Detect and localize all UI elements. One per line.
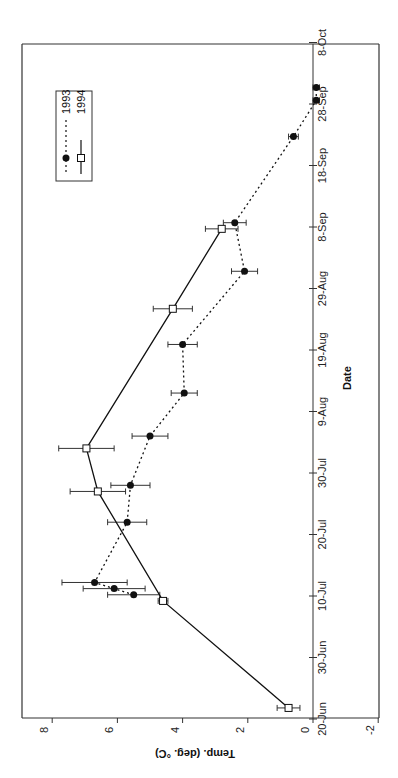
- data-point-marker: [169, 305, 176, 312]
- x-tick-label: 29-Aug: [316, 271, 328, 306]
- data-point-marker: [241, 268, 248, 275]
- y-tick-label: 8: [38, 727, 50, 733]
- series-1993: [62, 84, 320, 598]
- x-tick-label: 20-Jun: [316, 702, 328, 736]
- data-point-marker: [127, 482, 134, 489]
- data-point-marker: [160, 597, 167, 604]
- x-tick-label: 30-Jun: [316, 641, 328, 675]
- data-point-marker: [111, 585, 118, 592]
- x-tick-label: 9-Aug: [316, 397, 328, 426]
- y-axis-title: Temp. (deg. °C): [155, 748, 235, 760]
- y-tick-label: 2: [234, 727, 246, 733]
- temperature-chart: 20-Jun30-Jun10-Jul20-Jul30-Jul9-Aug19-Au…: [0, 0, 398, 778]
- data-point-marker: [218, 225, 225, 232]
- data-point-marker: [94, 488, 101, 495]
- legend-label-1993: 1993: [60, 90, 72, 114]
- x-tick-label: 18-Sep: [316, 148, 328, 183]
- data-point-marker: [83, 445, 90, 452]
- data-point-marker: [91, 579, 98, 586]
- data-point-marker: [313, 97, 320, 104]
- data-point-marker: [313, 84, 320, 91]
- annotation-label: 4: [0, 0, 3, 2]
- data-point-marker: [130, 591, 137, 598]
- x-tick-label: 8-Oct: [316, 29, 328, 56]
- data-point-marker: [231, 219, 238, 226]
- y-tick-label: 0: [299, 727, 311, 733]
- data-point-marker: [179, 341, 186, 348]
- legend-label-1994: 1994: [75, 90, 87, 114]
- data-point-marker: [147, 433, 154, 440]
- y-tick-label: -2: [364, 725, 376, 735]
- data-point-marker: [181, 390, 188, 397]
- data-point-marker: [290, 133, 297, 140]
- data-point-marker: [124, 519, 131, 526]
- y-tick-label: 6: [103, 727, 115, 733]
- series-1994: [59, 225, 300, 711]
- data-series: [59, 84, 320, 712]
- legend: 1993 1994: [56, 90, 92, 181]
- x-tick-label: 19-Aug: [316, 332, 328, 367]
- x-axis-title: Date: [341, 366, 353, 390]
- x-tick-label: 10-Jul: [316, 581, 328, 611]
- x-tick-label: 20-Jul: [316, 520, 328, 550]
- open-square-marker-icon: [78, 155, 85, 162]
- y-tick-label: 4: [169, 727, 181, 733]
- data-point-marker: [285, 704, 292, 711]
- x-tick-label: 28-Sep: [316, 86, 328, 121]
- x-tick-label: 30-Jul: [316, 458, 328, 488]
- x-tick-label: 8-Sep: [316, 212, 328, 241]
- filled-circle-marker-icon: [63, 155, 70, 162]
